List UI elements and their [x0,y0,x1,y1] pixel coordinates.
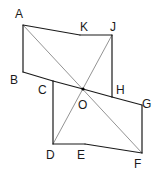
vertex-label-B: B [10,73,18,87]
edge-HG [112,97,142,105]
vertex-label-J: J [110,20,116,34]
vertex-label-A: A [15,7,23,21]
edge-AK [23,25,80,35]
geometry-diagram: AKJBCOHGDEF [0,0,166,173]
center-point-O [81,87,84,90]
vertex-label-D: D [46,148,55,162]
vertex-label-O: O [78,98,87,112]
vertex-label-E: E [77,148,85,162]
vertex-label-F: F [134,157,141,171]
vertex-label-H: H [116,83,125,97]
vertex-label-G: G [142,97,151,111]
vertex-label-C: C [38,83,47,97]
edge-OH [83,89,112,97]
vertex-label-K: K [80,20,88,34]
edge-FE [85,144,142,153]
edge-CB [23,72,53,81]
